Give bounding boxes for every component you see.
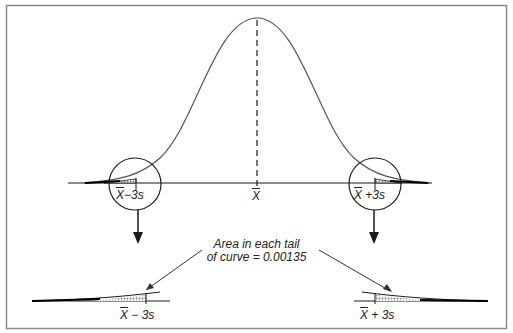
x-bar-symbol: X	[120, 308, 128, 322]
lower-right-tail-edge	[420, 300, 488, 301]
minus-3s-text: − 3s	[128, 308, 154, 322]
x-bar-symbol: X	[360, 308, 368, 322]
x-bar-symbol: X	[252, 189, 260, 203]
lower-left-limit-label: X − 3s	[120, 309, 154, 321]
left-limit-upper-label: X−3s	[116, 189, 144, 201]
plus-3s-text: +3s	[362, 188, 385, 202]
mean-label: X	[252, 190, 260, 202]
lower-right-limit-label: X + 3s	[360, 309, 394, 321]
right-limit-upper-label: X +3s	[354, 189, 385, 201]
x-bar-symbol: X	[116, 188, 124, 202]
annotation-line-2: of curve = 0.00135	[0, 251, 513, 264]
minus-3s-text: −3s	[124, 188, 144, 202]
left-magnify-circle	[109, 158, 161, 210]
tail-area-annotation: Area in each tail of curve = 0.00135	[0, 238, 513, 264]
plus-3s-text: + 3s	[368, 308, 394, 322]
left-pointer-arrowhead-icon	[146, 283, 154, 290]
normal-distribution-diagram	[0, 0, 513, 333]
x-bar-symbol: X	[354, 188, 362, 202]
right-pointer-arrowhead-icon	[383, 284, 392, 292]
